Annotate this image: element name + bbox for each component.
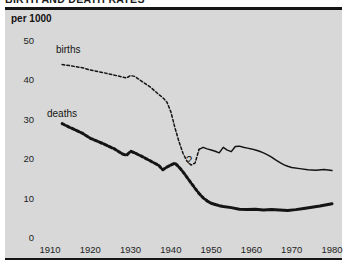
plot-lines: [0, 0, 347, 270]
chart-figure: BIRTH AND DEATH RATES per 1000 50 40 30 …: [0, 0, 347, 270]
line-series-births: [62, 65, 332, 171]
